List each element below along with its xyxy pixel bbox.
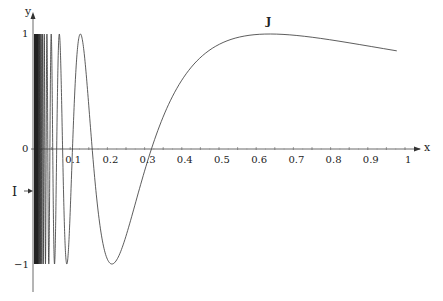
dense-oscillation-band bbox=[34, 34, 38, 264]
label-I: I bbox=[12, 185, 17, 198]
plot-area bbox=[0, 0, 443, 301]
y-axis-label: y bbox=[25, 6, 31, 17]
x-tick-label: 0.4 bbox=[177, 155, 193, 165]
y-tick-minus-1: −1 bbox=[14, 260, 29, 270]
x-tick-label: 0.5 bbox=[214, 155, 230, 165]
x-tick-label: 0.3 bbox=[140, 155, 156, 165]
origin-label: 0 bbox=[22, 144, 28, 154]
I-arrow-icon bbox=[28, 189, 33, 194]
x-axis-label: x bbox=[424, 142, 430, 153]
axes bbox=[24, 12, 421, 292]
x-tick-label: 0.8 bbox=[326, 155, 342, 165]
label-J: J bbox=[266, 16, 271, 27]
x-tick-label: 0.9 bbox=[363, 155, 379, 165]
x-tick-label: 1 bbox=[405, 155, 411, 165]
x-tick-label: 0.6 bbox=[251, 155, 267, 165]
x-axis-arrow-icon bbox=[414, 147, 421, 152]
x-tick-label: 0.7 bbox=[288, 155, 304, 165]
y-axis-arrow-icon bbox=[31, 12, 36, 19]
x-tick-label: 0.2 bbox=[102, 155, 118, 165]
y-tick-1: 1 bbox=[22, 29, 28, 39]
x-tick-label: 0.1 bbox=[65, 155, 81, 165]
